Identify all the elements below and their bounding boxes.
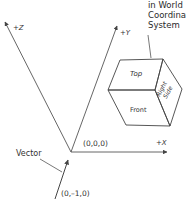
caption-text: in World Coordinate System: [148, 0, 186, 30]
vector-label: Vector: [16, 150, 42, 158]
caption-line-1: in World: [148, 0, 186, 10]
x-axis-label: +X: [156, 140, 167, 147]
vector-leader-line: [40, 159, 62, 172]
origin-label: (0,0,0): [83, 140, 108, 148]
z-axis-label: +Z: [13, 25, 24, 32]
vector-value-label: (0,–1,0): [61, 190, 90, 198]
caption-leader-line: [148, 35, 151, 58]
caption-line-2: Coordinate: [148, 10, 186, 20]
y-axis-label: +Y: [120, 30, 130, 37]
cube-top-label: Top: [130, 71, 142, 78]
z-axis: [5, 22, 71, 152]
y-axis: [71, 26, 117, 152]
caption-line-3: System: [148, 20, 186, 30]
cube-front-label: Front: [130, 107, 146, 114]
